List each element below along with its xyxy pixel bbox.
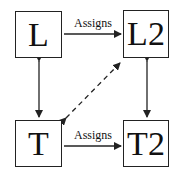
node-t2-label: T2	[127, 127, 165, 161]
arrow-t-l2-dashed	[66, 63, 120, 118]
node-l2: L2	[123, 10, 169, 58]
node-l: L	[15, 11, 62, 58]
edge-label-l-l2: Assigns	[74, 16, 112, 31]
node-l2-label: L2	[127, 17, 165, 51]
node-t2: T2	[123, 120, 169, 167]
node-t-label: T	[28, 127, 49, 161]
node-t: T	[15, 120, 62, 167]
edge-label-t-t2: Assigns	[74, 128, 112, 143]
node-l-label: L	[28, 18, 49, 52]
